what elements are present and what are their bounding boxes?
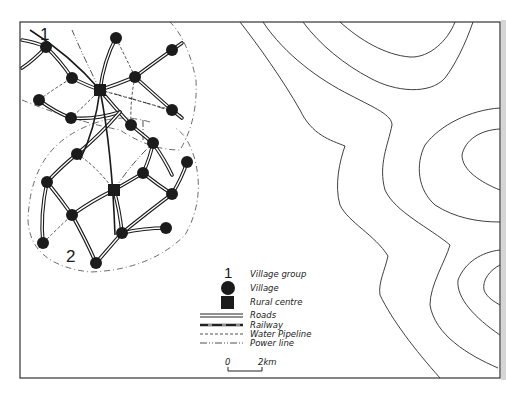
legend-label-roads: Roads	[250, 310, 277, 320]
legend-label-village: Village	[250, 283, 279, 293]
village-marker	[41, 176, 53, 188]
legend-label-rural-centre: Rural centre	[250, 297, 302, 307]
village-marker	[181, 156, 193, 168]
scale-start-label: 0	[225, 357, 230, 367]
village-marker	[125, 119, 137, 131]
settlement-map: 12 1 Village group Village Rural centre …	[0, 0, 506, 398]
village-marker	[137, 167, 149, 179]
village-marker	[33, 94, 45, 106]
road	[100, 38, 116, 90]
village-marker	[166, 104, 178, 116]
village-marker	[65, 112, 77, 124]
rural-centre-2	[108, 184, 120, 196]
village-marker	[166, 44, 178, 56]
village-group-boundaries	[22, 22, 198, 272]
legend-roads-icon	[200, 314, 243, 317]
villages	[33, 32, 193, 269]
legend-label-village-group: Village group	[250, 269, 306, 279]
contour-line	[419, 108, 500, 222]
village-marker	[116, 227, 128, 239]
rural-centre-1	[94, 84, 106, 96]
scale-bar-line	[228, 367, 262, 371]
scale-bar: 0 2km	[225, 357, 277, 371]
contour-line	[462, 129, 500, 190]
village-marker	[129, 71, 141, 83]
page-edge-shadow	[501, 20, 506, 380]
legend-label-power-line: Power line	[250, 338, 294, 348]
contour-line	[263, 22, 498, 368]
village-marker	[90, 257, 102, 269]
contour-line	[484, 265, 500, 305]
road	[22, 40, 100, 90]
village-marker	[71, 148, 83, 160]
legend: 1 Village group Village Rural centre Roa…	[200, 264, 311, 371]
village-marker	[66, 209, 78, 221]
village-marker	[147, 137, 159, 149]
contour-line	[303, 22, 473, 90]
village-marker	[66, 72, 78, 84]
road	[96, 190, 122, 263]
group-label: 2	[66, 247, 75, 266]
legend-rural-centre-icon	[221, 296, 234, 309]
legend-village-icon	[221, 281, 235, 295]
village-marker	[37, 237, 49, 249]
village-marker	[160, 222, 172, 234]
water-pipeline	[43, 215, 72, 243]
contour-line	[340, 22, 455, 57]
village-marker	[110, 32, 122, 44]
water-pipeline	[116, 38, 135, 77]
village-marker	[166, 188, 178, 200]
group-label: 1	[40, 25, 49, 44]
scale-end-label: 2km	[258, 357, 277, 367]
legend-group-number: 1	[224, 264, 232, 281]
water-pipeline	[131, 77, 135, 125]
contour-line	[458, 250, 500, 335]
road-centre	[143, 162, 187, 194]
